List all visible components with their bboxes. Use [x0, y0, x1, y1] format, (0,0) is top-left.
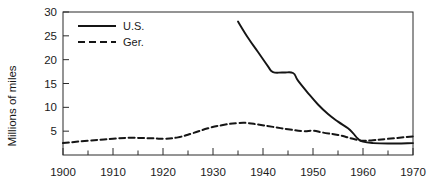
x-tick-label: 1960	[350, 166, 376, 178]
x-tick-label: 1940	[250, 166, 276, 178]
x-axis-ticks	[63, 148, 413, 155]
y-tick-label: 25	[44, 30, 57, 42]
chart-legend: U.S.Ger.	[78, 20, 144, 48]
y-tick-label: 10	[44, 101, 57, 113]
y-axis-tick-labels: 51015202530	[44, 6, 57, 137]
legend-label: U.S.	[123, 20, 144, 32]
x-tick-label: 1970	[400, 166, 426, 178]
y-tick-label: 15	[44, 78, 57, 90]
x-axis-tick-labels: 19001910192019301940195019601970	[50, 166, 426, 178]
y-tick-label: 20	[44, 54, 57, 66]
x-tick-label: 1920	[150, 166, 176, 178]
line-chart: 19001910192019301940195019601970 5101520…	[0, 0, 429, 192]
legend-label: Ger.	[123, 36, 144, 48]
x-tick-label: 1930	[200, 166, 226, 178]
y-axis-ticks	[63, 12, 69, 131]
y-tick-label: 30	[44, 6, 57, 18]
plot-frame	[63, 12, 413, 155]
y-tick-label: 5	[51, 125, 57, 137]
x-tick-label: 1910	[100, 166, 126, 178]
series-line-ger	[63, 123, 413, 143]
y-axis-title: Millions of miles	[6, 65, 18, 146]
data-series-group	[63, 22, 413, 144]
x-tick-label: 1900	[50, 166, 76, 178]
x-tick-label: 1950	[300, 166, 326, 178]
chart-canvas: 19001910192019301940195019601970 5101520…	[0, 0, 429, 192]
